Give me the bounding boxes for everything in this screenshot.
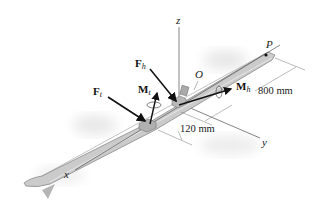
force-heel-label: Fh — [135, 57, 146, 71]
dimension-800-label: 800 mm — [258, 85, 293, 96]
dimension-120-label: 120 mm — [180, 123, 215, 134]
moment-heel-label: Mh — [236, 80, 250, 94]
point-p-marker — [264, 53, 267, 56]
force-toe-arrow — [108, 97, 145, 121]
origin-leader — [194, 81, 198, 90]
force-toe-label: Ft — [93, 85, 103, 99]
point-p-label: P — [265, 38, 273, 50]
x-axis-label: x — [63, 168, 69, 180]
z-axis-label: z — [175, 14, 181, 26]
ski-free-body-diagram: z y x P O 800 mm 120 mm Fh — [0, 0, 323, 212]
force-heel-arrow — [150, 69, 176, 101]
y-axis-label: y — [261, 136, 267, 148]
moment-toe-label: Mt — [138, 83, 151, 97]
origin-label: O — [195, 68, 203, 80]
